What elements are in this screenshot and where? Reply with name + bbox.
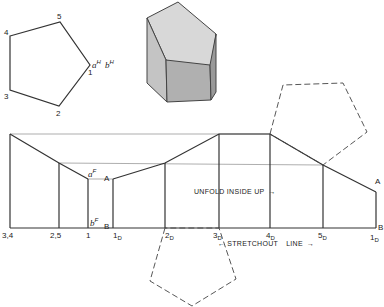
isometric-prism [147, 2, 216, 102]
base-label-1d-end: 1D [370, 233, 379, 243]
top-view: 4 5 1 2 3 aH bH [4, 12, 115, 118]
base-label-3-4: 3,4 [2, 231, 14, 240]
unfold-note: UNFOLD INSIDE UP→ [194, 188, 276, 195]
label-B: B [104, 222, 109, 231]
base-label-1: 1 [86, 231, 91, 240]
vertex-label-2: 2 [56, 109, 61, 118]
base-label-2-5: 2,5 [50, 231, 62, 240]
top-view-pentagon [10, 22, 90, 106]
label-A: A [104, 174, 110, 183]
vertex-label-4: 4 [4, 28, 9, 37]
top-face-pentagon-dashed [270, 83, 367, 165]
prism-front-face [166, 60, 211, 102]
stretchout-note: ←STRETCHOUTLINE→ [218, 240, 314, 247]
label-a-f: aF [88, 168, 97, 179]
end-label-B: B [378, 223, 383, 232]
profile-left [10, 134, 88, 179]
profile-right [113, 134, 376, 192]
label-b-f: bF [90, 217, 99, 228]
vertex-label-3: 3 [4, 92, 9, 101]
base-label-5d: 5D [318, 231, 327, 241]
vertex-label-5: 5 [57, 12, 62, 21]
base-label-2d: 2D [165, 231, 174, 241]
base-label-1d: 1D [113, 231, 122, 241]
label-a-h: aH [92, 59, 102, 70]
projection-line-mid [59, 163, 323, 165]
drawing-canvas: 4 5 1 2 3 aH bH [0, 0, 384, 307]
end-label-A: A [375, 177, 381, 186]
label-b-h: bH [105, 59, 115, 70]
